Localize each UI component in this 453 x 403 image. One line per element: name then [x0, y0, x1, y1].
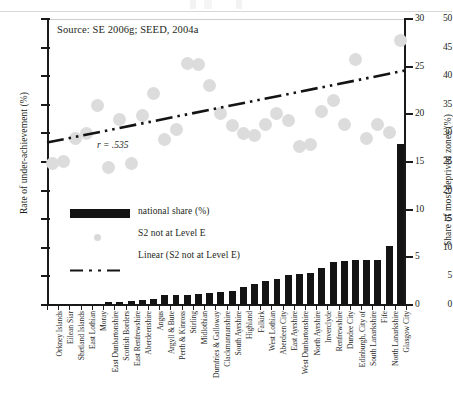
- legend-bar-swatch: [70, 209, 130, 218]
- x-axis-category-label: Dundee City: [347, 311, 355, 349]
- x-axis-labels: Orkney IslandsEilean SiarShetland Island…: [47, 311, 406, 403]
- x-axis-tick: [137, 305, 138, 310]
- clipped-caption-strip: [190, 0, 320, 9]
- x-axis-tick: [271, 305, 272, 310]
- x-axis-category-label: North Lanarkshire: [392, 311, 400, 366]
- x-axis-category-label: Midlothian: [201, 311, 209, 344]
- x-axis-tick: [126, 305, 127, 310]
- x-axis-tick: [81, 305, 82, 310]
- legend-line-swatch: [70, 258, 130, 260]
- x-axis-tick: [384, 305, 385, 310]
- x-axis-tick: [327, 305, 328, 310]
- x-axis-tick: [215, 305, 216, 310]
- x-axis-tick: [58, 305, 59, 310]
- x-axis-tick: [193, 305, 194, 310]
- legend-item-bar: national share (%): [60, 205, 260, 227]
- x-axis-category-label: Perth & Kinross: [179, 311, 187, 360]
- x-axis-tick: [103, 305, 104, 310]
- x-axis-category-label: Glasgow City: [403, 311, 411, 352]
- x-axis-category-label: Fife: [381, 311, 389, 323]
- x-axis-category-label: Moray: [100, 311, 108, 331]
- x-axis-category-label: Eilean Siar: [67, 311, 75, 344]
- x-axis-category-label: East Renfrewshire: [134, 311, 142, 366]
- x-axis-category-label: North Ayrshire: [314, 311, 322, 355]
- x-axis-tick: [249, 305, 250, 310]
- x-axis-tick: [92, 305, 93, 310]
- right-axis-tick-label: 20: [415, 109, 437, 119]
- x-axis-tick: [294, 305, 295, 310]
- x-axis-tick: [395, 305, 396, 310]
- legend-scatter-swatch: [94, 234, 101, 241]
- x-axis-tick: [159, 305, 160, 310]
- right-axis-tick-label: 5: [415, 252, 437, 262]
- legend-line-icon: [70, 269, 130, 272]
- x-axis-tick: [283, 305, 284, 310]
- x-axis-category-label: Angus: [157, 311, 165, 331]
- x-axis-category-label: Argyll & Bute: [168, 311, 176, 354]
- x-axis-tick: [372, 305, 373, 310]
- x-axis-category-label: Aberdeenshire: [145, 311, 153, 355]
- x-axis-category-label: Shetland Islands: [78, 311, 86, 360]
- correlation-annotation: r = .535: [97, 140, 128, 150]
- x-axis-category-label: Renfrewshire: [336, 311, 344, 351]
- x-axis-tick: [114, 305, 115, 310]
- x-axis-category-label: Clackmannanshire: [224, 311, 232, 367]
- x-axis-tick: [182, 305, 183, 310]
- x-axis-category-label: Stirling: [190, 311, 198, 333]
- trendline-path: [47, 70, 405, 142]
- right-axis-tick-label: 30: [415, 14, 437, 24]
- legend: national share (%) S2 not at Level E Lin…: [60, 205, 260, 271]
- x-axis-category-label: West Lothian: [269, 311, 277, 351]
- x-axis-tick: [204, 305, 205, 310]
- x-axis-category-label: West Dunbartonshire: [302, 311, 310, 374]
- x-axis-tick: [148, 305, 149, 310]
- x-axis-category-label: South Lanarkshire: [370, 311, 378, 366]
- x-axis-tick: [227, 305, 228, 310]
- x-axis-tick: [47, 305, 48, 310]
- x-axis-tick: [350, 305, 351, 310]
- x-axis-category-label: Inverclyde: [325, 311, 333, 343]
- x-axis-tick: [339, 305, 340, 310]
- x-axis-category-label: Falkirk: [258, 311, 266, 333]
- right-axis-tick-label: 0: [415, 300, 437, 310]
- x-axis-category-label: Aberdeen City: [280, 311, 288, 355]
- x-axis-category-label: Highland: [246, 311, 254, 339]
- x-axis-category-label: Edinburgh, City of: [359, 311, 367, 367]
- x-axis-tick: [69, 305, 70, 310]
- legend-item-line: Linear (S2 not at Level E): [60, 249, 260, 271]
- x-axis-tick: [305, 305, 306, 310]
- x-axis-category-label: Orkney Islands: [56, 311, 64, 357]
- x-axis-category-label: Scottish Borders: [123, 311, 131, 361]
- right-axis-tick-label: 10: [415, 205, 437, 215]
- x-axis-tick: [406, 305, 407, 310]
- x-axis-tick: [260, 305, 261, 310]
- x-axis-tick: [170, 305, 171, 310]
- legend-item-scatter: S2 not at Level E: [60, 227, 260, 249]
- top-rule: [0, 11, 452, 12]
- x-axis-tick: [238, 305, 239, 310]
- right-axis-tick-label: 25: [415, 62, 437, 72]
- right-axis-title: Share of most deprived zones (%): [443, 80, 453, 280]
- x-axis-category-label: East Ayrshire: [291, 311, 299, 351]
- right-axis-tick-label: 15: [415, 157, 437, 167]
- x-axis-category-label: Dumfries & Galloway: [213, 311, 221, 378]
- x-axis-category-label: East Dunbartonshire: [112, 311, 120, 372]
- x-axis-category-label: South Ayrshire: [235, 311, 243, 355]
- x-axis-tick: [361, 305, 362, 310]
- legend-line-label: Linear (S2 not at Level E): [138, 250, 240, 260]
- x-axis-category-label: East Lothian: [89, 311, 97, 349]
- legend-bar-label: national share (%): [138, 206, 209, 216]
- x-axis-tick: [316, 305, 317, 310]
- legend-scatter-label: S2 not at Level E: [138, 228, 206, 238]
- left-axis-title: Rate of under-achievement (%): [19, 63, 29, 243]
- left-axis-tick-label: 45: [430, 43, 452, 53]
